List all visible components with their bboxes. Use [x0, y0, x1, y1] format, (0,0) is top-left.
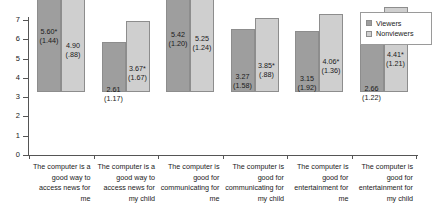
bar-mean-value: 5.25 [185, 34, 219, 43]
x-axis-tick [352, 155, 353, 159]
x-axis-tick [416, 155, 417, 159]
x-axis-category-label: The computer is good for communicating f… [225, 162, 285, 204]
bar-sd-value: (1.21) [379, 59, 413, 68]
x-axis-category-label: The computer is a good way to access new… [96, 162, 156, 204]
x-axis-tick [94, 155, 95, 159]
legend-item-viewers: Viewers [366, 19, 425, 28]
bar-value-label: 3.85*(.88) [250, 61, 284, 79]
bar-mean-value: 2.61 [97, 85, 131, 94]
x-axis-tick [287, 155, 288, 159]
bar-mean-value: 4.06* [314, 57, 348, 66]
bar-value-label: 4.90(.88) [56, 41, 90, 59]
bar-sd-value: (.88) [250, 70, 284, 79]
legend-label-viewers: Viewers [376, 19, 401, 28]
chart-legend: Viewers Nonviewers [360, 12, 432, 45]
legend-item-nonviewers: Nonviewers [366, 29, 425, 38]
bar-value-label: 4.41*(1.21) [379, 50, 413, 68]
bar-mean-value: 2.66 [355, 84, 389, 93]
bar-value-label: 4.06*(1.36) [314, 57, 348, 75]
bar-value-label: 5.25(1.24) [185, 34, 219, 52]
bar-value-label: 3.15(1.92) [290, 74, 324, 92]
bar-mean-value: 3.85* [250, 61, 284, 70]
x-axis-category-label: The computer is good for entertainment f… [354, 162, 414, 204]
nonviewers-swatch-icon [366, 31, 372, 37]
bar-sd-value: (1.92) [290, 83, 324, 92]
bar-mean-value: 3.67* [121, 64, 155, 73]
x-axis-category-label: The computer is good for communicating f… [160, 162, 220, 204]
bar-chart: 76543210 5.60*(1.44)4.90(.88)2.61(1.17)3… [0, 0, 440, 218]
bar-sd-value: (1.22) [355, 93, 389, 102]
viewers-swatch-icon [366, 20, 372, 26]
bar-sd-value: (.88) [56, 50, 90, 59]
x-axis-tick [29, 155, 30, 159]
x-axis-category-label: The computer is good for entertainment f… [289, 162, 349, 204]
x-axis-tick [158, 155, 159, 159]
bar-mean-value: 4.90 [56, 41, 90, 50]
bar-sd-value: (1.24) [185, 43, 219, 52]
bar-sd-value: (1.67) [121, 73, 155, 82]
bar-sd-value: (1.17) [97, 94, 131, 103]
x-axis-category-label: The computer is a good way to access new… [31, 162, 91, 204]
bar-value-label: 3.67*(1.67) [121, 64, 155, 82]
bar-value-label: 2.61(1.17) [97, 85, 131, 103]
bar-value-label: 2.66(1.22) [355, 84, 389, 102]
legend-label-nonviewers: Nonviewers [376, 29, 414, 38]
bar-mean-value: 3.15 [290, 74, 324, 83]
bar-sd-value: (1.36) [314, 66, 348, 75]
x-axis-tick [223, 155, 224, 159]
bar-sd-value: (1.58) [226, 81, 260, 90]
bar-mean-value: 5.60* [32, 27, 66, 36]
bar-mean-value: 4.41* [379, 50, 413, 59]
y-axis-tick [23, 155, 28, 156]
